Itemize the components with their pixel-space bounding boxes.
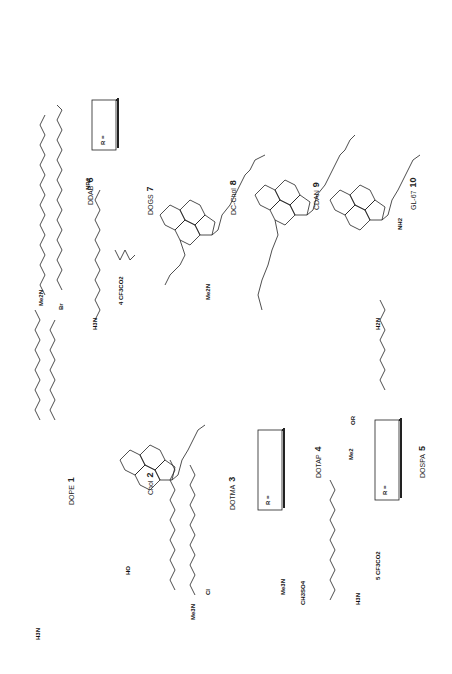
steroid-cdan: [330, 155, 420, 230]
atom-h3n-dogs: H3N: [92, 318, 98, 330]
label-dospa: DOSPA5: [417, 446, 427, 478]
dogs-backbone: [95, 190, 100, 320]
atom-cl-dotma: Cl: [205, 589, 211, 595]
steroid-dogs: [160, 155, 265, 285]
atom-r-dotap: R =: [265, 495, 271, 505]
dope-chain-1: [35, 310, 40, 420]
atom-h3n-dospa: H3N: [355, 593, 361, 605]
dope-chain-2: [50, 320, 55, 420]
atom-me2n-ddab: Me2N: [38, 290, 44, 306]
steroid-dc-chol: [255, 135, 355, 310]
atom-br: Br: [58, 303, 64, 310]
atom-ho-chol: HO: [125, 566, 131, 575]
atom-h2n-gl67: H2N: [375, 318, 381, 330]
label-dogs: DOGS7: [145, 186, 155, 215]
atom-or: OR: [350, 416, 356, 425]
atom-me3n-dotap: Me3N: [280, 579, 286, 595]
atom-h3n-dope: H3N: [35, 628, 41, 640]
label-dc-chol: DC-Chol8: [228, 180, 238, 215]
atom-r-dospa: R =: [382, 485, 388, 495]
atom-tfa-dospa: 5 CF3CO2: [375, 551, 381, 580]
gl67-chain: [380, 300, 385, 390]
atom-r-dogs: R =: [100, 135, 106, 145]
atom-me2n-dogs: Me2N: [205, 284, 211, 300]
atom-nr2: NR2: [85, 178, 91, 190]
dospa-backbone: [330, 480, 335, 600]
atom-tfa-dogs: 4 CF3CO2: [118, 276, 124, 305]
lipid-structures-drawing: [0, 0, 452, 674]
atom-me2-dospa: Me2: [348, 448, 354, 460]
label-chol: Chol2: [145, 473, 155, 495]
dotma-chain-2: [190, 465, 195, 595]
atom-me3n-dotma: Me3N: [190, 604, 196, 620]
label-cdan: CDAN9: [311, 182, 321, 210]
atom-ch3so4: CH3SO4: [300, 581, 306, 605]
label-dotap: DOTAP4: [313, 446, 323, 478]
label-gl67: GL-6710: [408, 178, 418, 210]
ddab-chain-2: [57, 105, 62, 290]
atom-nh2-gl67: NH2: [397, 218, 403, 230]
label-dotma: DOTMA3: [227, 477, 237, 510]
ddab-chain-1: [40, 115, 45, 295]
label-dope: DOPE1: [66, 477, 76, 505]
